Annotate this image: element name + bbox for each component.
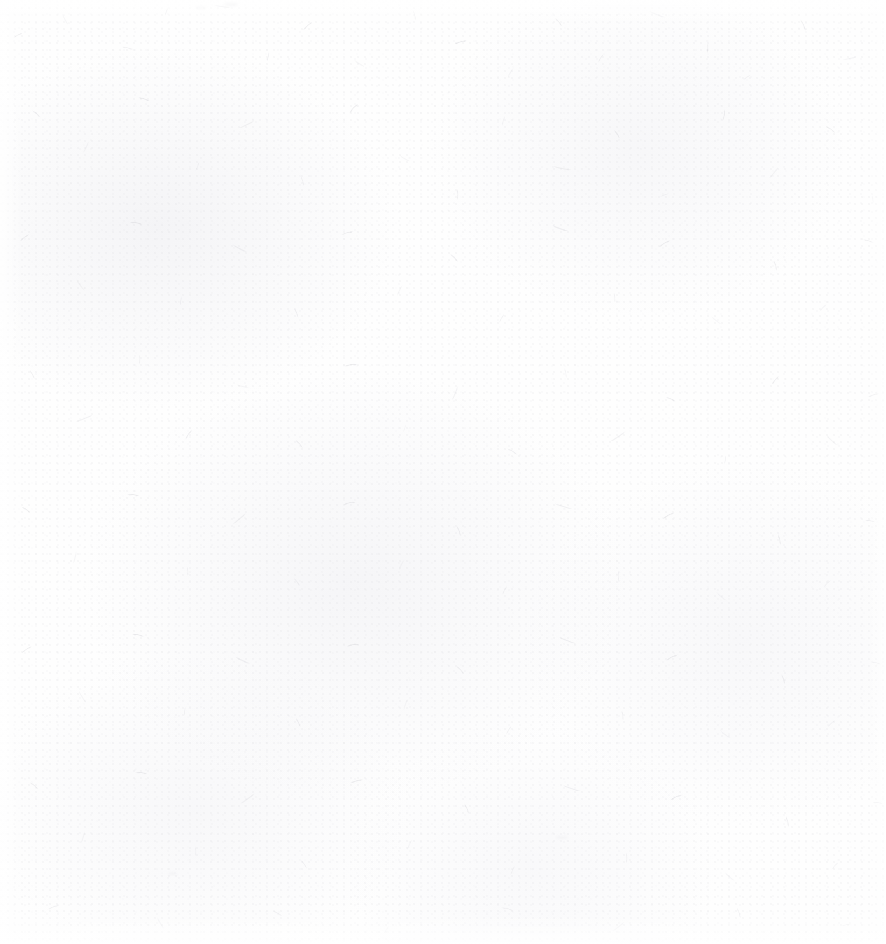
- paper-base-tone: [0, 0, 886, 944]
- paper-surface: [0, 0, 886, 944]
